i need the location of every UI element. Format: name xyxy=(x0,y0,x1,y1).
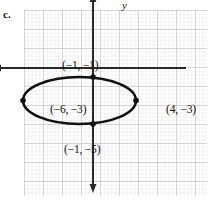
point-label-top: (−1, −1) xyxy=(62,59,98,71)
point-label-bottom: (−1, −5) xyxy=(64,143,100,155)
plot-overlay-svg xyxy=(0,0,186,196)
point-top-vertex xyxy=(90,74,96,80)
y-axis-bottom-arrow-icon xyxy=(90,184,97,193)
y-axis-label: y xyxy=(122,0,127,11)
figure-container: c. xyxy=(0,0,210,206)
point-label-right: (4, −3) xyxy=(166,103,196,115)
y-axis-top-arrow-icon xyxy=(90,0,97,2)
point-left-vertex xyxy=(20,98,26,104)
y-axis xyxy=(90,0,97,193)
point-bottom-vertex xyxy=(90,121,96,127)
point-label-left: (−6, −3) xyxy=(50,103,86,115)
x-axis-left-arrow-icon xyxy=(0,65,1,72)
point-right-vertex xyxy=(133,98,139,104)
ellipse-curve xyxy=(23,77,136,124)
